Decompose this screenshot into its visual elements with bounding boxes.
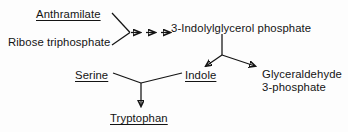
node-ribose-triphosphate: Ribose triphosphate xyxy=(8,36,110,49)
edge-fork-to-indole xyxy=(206,55,222,66)
edge-ribose-to-junction xyxy=(112,33,130,46)
node-serine: Serine xyxy=(75,69,108,82)
node-glyceraldehyde-3-phosphate-line2: 3-phosphate xyxy=(262,81,326,94)
node-indolylglycerol-phosphate: 3-Indolylglycerol phosphate xyxy=(171,22,311,35)
node-tryptophan: Tryptophan xyxy=(110,112,168,125)
node-indole: Indole xyxy=(185,69,216,82)
edge-indole-to-vertex xyxy=(141,73,182,83)
edge-serine-to-vertex xyxy=(113,73,141,83)
edge-anthramilate-to-junction xyxy=(112,13,130,33)
node-glyceraldehyde-3-phosphate-line1: Glyceraldehyde xyxy=(262,68,342,81)
pathway-diagram: Anthramilate Ribose triphosphate 3-Indol… xyxy=(0,0,348,132)
node-anthramilate: Anthramilate xyxy=(36,8,101,21)
edge-fork-to-glyceraldehyde xyxy=(222,55,255,66)
